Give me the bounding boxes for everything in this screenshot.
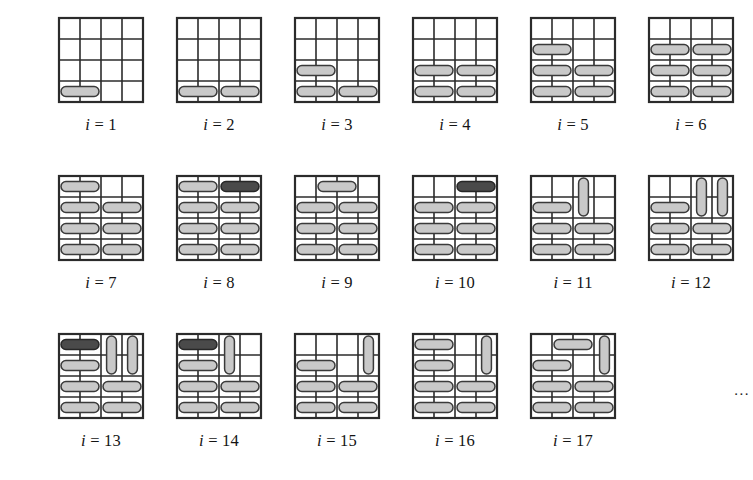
tiling-panel-1: i = 1 [42, 14, 160, 135]
domino-h-light [533, 87, 571, 97]
domino-h-light [221, 245, 259, 255]
panel-label-9: i = 9 [321, 273, 352, 293]
figure-row-1: i = 1i = 2i = 3i = 4i = 5i = 6 [0, 14, 753, 135]
domino-h-light [575, 382, 613, 392]
domino-h-light [533, 245, 571, 255]
domino-h-light [339, 245, 377, 255]
domino-h-light [457, 66, 495, 76]
domino-h-light [575, 403, 613, 413]
panel-label-5: i = 5 [557, 115, 588, 135]
tiling-grid-wrapper [645, 172, 737, 264]
domino-h-light [415, 203, 453, 213]
panel-label-1: i = 1 [85, 115, 116, 135]
domino-h-light [457, 403, 495, 413]
domino-h-light [103, 245, 141, 255]
label-index-value: 7 [108, 273, 116, 292]
domino-h-light [297, 203, 335, 213]
domino-v-light [225, 336, 235, 374]
label-index-value: 3 [344, 115, 352, 134]
domino-h-light [103, 403, 141, 413]
domino-h-light [575, 245, 613, 255]
panel-label-8: i = 8 [203, 273, 234, 293]
domino-h-light [179, 224, 217, 234]
tiling-grid-wrapper [291, 172, 383, 264]
domino-v-light [482, 336, 492, 374]
panel-label-4: i = 4 [439, 115, 470, 135]
domino-h-light [61, 361, 99, 371]
tiling-grid [527, 14, 619, 106]
domino-h-light [297, 361, 335, 371]
domino-h-light [533, 382, 571, 392]
label-index-value: 14 [222, 431, 239, 450]
tiling-panel-9: i = 9 [278, 172, 396, 293]
tiling-grid [409, 172, 501, 264]
label-index-value: 17 [576, 431, 593, 450]
domino-h-light [575, 66, 613, 76]
panel-label-6: i = 6 [675, 115, 706, 135]
domino-h-light [103, 203, 141, 213]
tiling-grid-wrapper [55, 14, 147, 106]
label-index-value: 16 [458, 431, 475, 450]
tiling-grid-wrapper [527, 172, 619, 264]
tiling-panel-13: i = 13 [42, 330, 160, 451]
domino-h-light [651, 87, 689, 97]
label-equals: = [440, 431, 458, 450]
tiling-grid [527, 330, 619, 422]
domino-h-light [297, 403, 335, 413]
panel-label-15: i = 15 [317, 431, 357, 451]
tiling-grid-wrapper [645, 14, 737, 106]
tiling-panel-6: i = 6 [632, 14, 750, 135]
label-equals: = [204, 431, 222, 450]
label-index-value: 2 [226, 115, 234, 134]
domino-h-light [221, 87, 259, 97]
domino-h-light [533, 45, 571, 55]
tiling-panel-12: i = 12 [632, 172, 750, 293]
domino-h-light [297, 245, 335, 255]
tiling-panel-7: i = 7 [42, 172, 160, 293]
domino-h-light [457, 382, 495, 392]
panel-label-12: i = 12 [671, 273, 711, 293]
domino-layer [61, 87, 99, 97]
panel-label-13: i = 13 [81, 431, 121, 451]
label-index-value: 13 [104, 431, 121, 450]
domino-v-light [600, 336, 610, 374]
label-index-value: 10 [458, 273, 475, 292]
tiling-grid [173, 330, 265, 422]
tiling-grid-wrapper [173, 330, 265, 422]
domino-h-light [339, 203, 377, 213]
tiling-grid-wrapper [55, 330, 147, 422]
panel-label-14: i = 14 [199, 431, 239, 451]
domino-h-light [533, 361, 571, 371]
ellipsis-text: ... [734, 382, 750, 399]
tiling-grid [409, 330, 501, 422]
tiling-panel-5: i = 5 [514, 14, 632, 135]
domino-h-light [61, 382, 99, 392]
label-index-value: 9 [344, 273, 352, 292]
domino-h-light [61, 245, 99, 255]
tiling-grid [527, 172, 619, 264]
tiling-grid [291, 172, 383, 264]
domino-h-light [651, 245, 689, 255]
domino-h-light [533, 403, 571, 413]
label-equals: = [558, 273, 576, 292]
tiling-panel-14: i = 14 [160, 330, 278, 451]
label-equals: = [562, 115, 580, 134]
domino-h-light [693, 224, 731, 234]
label-equals: = [440, 273, 458, 292]
domino-h-light [179, 182, 217, 192]
label-index-value: 8 [226, 273, 234, 292]
label-equals: = [676, 273, 694, 292]
domino-h-light [318, 182, 356, 192]
domino-h-light [179, 87, 217, 97]
label-equals: = [208, 273, 226, 292]
domino-h-light [415, 87, 453, 97]
domino-h-light [221, 403, 259, 413]
domino-h-light [179, 203, 217, 213]
domino-h-light [339, 224, 377, 234]
tiling-grid-wrapper [291, 330, 383, 422]
tiling-panel-4: i = 4 [396, 14, 514, 135]
label-index-value: 11 [576, 273, 592, 292]
panel-label-11: i = 11 [553, 273, 592, 293]
tiling-grid-wrapper [173, 14, 265, 106]
domino-h-light [415, 403, 453, 413]
